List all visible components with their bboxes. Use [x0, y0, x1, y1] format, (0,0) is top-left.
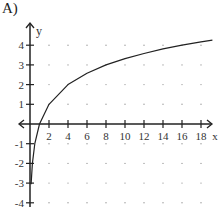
y-tick-label: 1 — [19, 98, 25, 110]
grid-dot — [67, 45, 68, 46]
x-axis-label: x — [212, 130, 218, 142]
grid-dot — [162, 64, 163, 65]
grid-dot — [143, 163, 144, 164]
grid-dot — [86, 182, 87, 183]
grid-dot — [105, 104, 106, 105]
grid-dot — [124, 163, 125, 164]
grid-dot — [124, 202, 125, 203]
y-tick-label: -4 — [15, 197, 25, 209]
grid-dot — [181, 84, 182, 85]
grid-dot — [67, 104, 68, 105]
grid-dot — [86, 104, 87, 105]
grid-dot — [105, 182, 106, 183]
grid-dot — [162, 104, 163, 105]
grid-dot — [200, 163, 201, 164]
x-tick-label: 10 — [120, 130, 132, 142]
grid-dot — [48, 182, 49, 183]
grid-dot — [67, 182, 68, 183]
grid-dot — [105, 163, 106, 164]
x-tick-label: 2 — [46, 130, 52, 142]
y-tick-label: 3 — [19, 59, 25, 71]
grid-dot — [105, 45, 106, 46]
grid-dot — [143, 45, 144, 46]
grid-dot — [162, 182, 163, 183]
grid-dot — [86, 163, 87, 164]
grid-dot — [86, 202, 87, 203]
grid-dot — [181, 163, 182, 164]
grid-dot — [200, 104, 201, 105]
grid-dot — [67, 202, 68, 203]
grid-dot — [86, 84, 87, 85]
function-graph: 24681012141618-4-3-2-11234xy — [0, 0, 220, 213]
y-tick-label: 2 — [19, 79, 25, 91]
grid-dot — [143, 84, 144, 85]
x-tick-label: 12 — [139, 130, 150, 142]
x-tick-label: 16 — [177, 130, 189, 142]
grid-dot — [181, 202, 182, 203]
grid-dot — [48, 84, 49, 85]
grid-dot — [143, 202, 144, 203]
grid-dot — [48, 163, 49, 164]
y-axis-label: y — [36, 24, 42, 38]
y-tick-label: -3 — [15, 177, 25, 189]
grid-dot — [200, 45, 201, 46]
grid-dot — [162, 45, 163, 46]
grid-dot — [124, 182, 125, 183]
x-tick-label: 14 — [158, 130, 170, 142]
grid-dot — [48, 45, 49, 46]
grid-dot — [162, 84, 163, 85]
grid-dot — [162, 163, 163, 164]
grid-dot — [105, 143, 106, 144]
grid-dot — [124, 64, 125, 65]
grid-dot — [143, 104, 144, 105]
function-curve — [31, 40, 212, 184]
grid-dot — [105, 84, 106, 85]
grid-dot — [86, 45, 87, 46]
grid-dot — [86, 64, 87, 65]
x-tick-label: 18 — [196, 130, 208, 142]
grid-dot — [181, 143, 182, 144]
grid-dot — [124, 84, 125, 85]
grid-dot — [48, 202, 49, 203]
grid-dot — [181, 104, 182, 105]
grid-dot — [200, 182, 201, 183]
grid-dot — [86, 143, 87, 144]
grid-dot — [124, 104, 125, 105]
grid-dot — [162, 143, 163, 144]
grid-dot — [181, 64, 182, 65]
grid-dot — [67, 163, 68, 164]
grid-dot — [124, 45, 125, 46]
grid-dot — [200, 64, 201, 65]
grid-dot — [143, 182, 144, 183]
grid-dot — [143, 64, 144, 65]
grid-dot — [67, 64, 68, 65]
y-tick-label: -2 — [15, 157, 24, 169]
grid-dot — [124, 143, 125, 144]
grid-dot — [48, 64, 49, 65]
x-tick-label: 4 — [65, 130, 71, 142]
y-tick-label: 4 — [19, 39, 25, 51]
y-tick-label: -1 — [15, 138, 24, 150]
grid-dot — [67, 143, 68, 144]
x-tick-label: 6 — [84, 130, 90, 142]
grid-dot — [200, 143, 201, 144]
grid-dot — [162, 202, 163, 203]
x-tick-label: 8 — [103, 130, 109, 142]
grid-dot — [200, 84, 201, 85]
grid-dot — [143, 143, 144, 144]
grid-dot — [105, 202, 106, 203]
grid-dot — [200, 202, 201, 203]
grid-dot — [181, 182, 182, 183]
grid-dot — [48, 143, 49, 144]
